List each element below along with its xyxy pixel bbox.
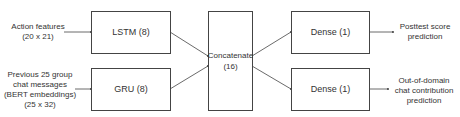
- dense-top-label: Dense (1): [311, 27, 351, 38]
- lstm-layer: LSTM (8): [91, 11, 171, 54]
- output-posttest-prediction: Posttest score prediction: [394, 22, 456, 42]
- gru-layer: GRU (8): [91, 68, 171, 111]
- input-chat-line3: (BERT embeddings): [0, 90, 80, 100]
- input-chat-line2: chat messages: [0, 80, 80, 90]
- output-ood-prediction: Out-of-domain chat contribution predicti…: [388, 76, 460, 106]
- lstm-label: LSTM (8): [112, 27, 150, 38]
- dense-bottom-label: Dense (1): [311, 84, 351, 95]
- concatenate-label: Concatenate: [208, 50, 253, 61]
- input-action-features: Action features (20 x 21): [4, 22, 72, 42]
- input-chat-shape: (25 x 32): [0, 100, 80, 110]
- output-posttest-line2: prediction: [394, 32, 456, 42]
- gru-label: GRU (8): [114, 84, 148, 95]
- input-action-shape: (20 x 21): [4, 32, 72, 42]
- dense-top-layer: Dense (1): [291, 11, 370, 54]
- input-chat-messages: Previous 25 group chat messages (BERT em…: [0, 70, 80, 110]
- input-chat-line1: Previous 25 group: [0, 70, 80, 80]
- input-action-title: Action features: [4, 22, 72, 32]
- output-ood-line1: Out-of-domain: [388, 76, 460, 86]
- output-posttest-line1: Posttest score: [394, 22, 456, 32]
- concatenate-layer: Concatenate (16): [208, 11, 253, 111]
- dense-bottom-layer: Dense (1): [291, 68, 370, 111]
- concatenate-size: (16): [223, 61, 237, 72]
- output-ood-line3: prediction: [388, 96, 460, 106]
- output-ood-line2: chat contribution: [388, 86, 460, 96]
